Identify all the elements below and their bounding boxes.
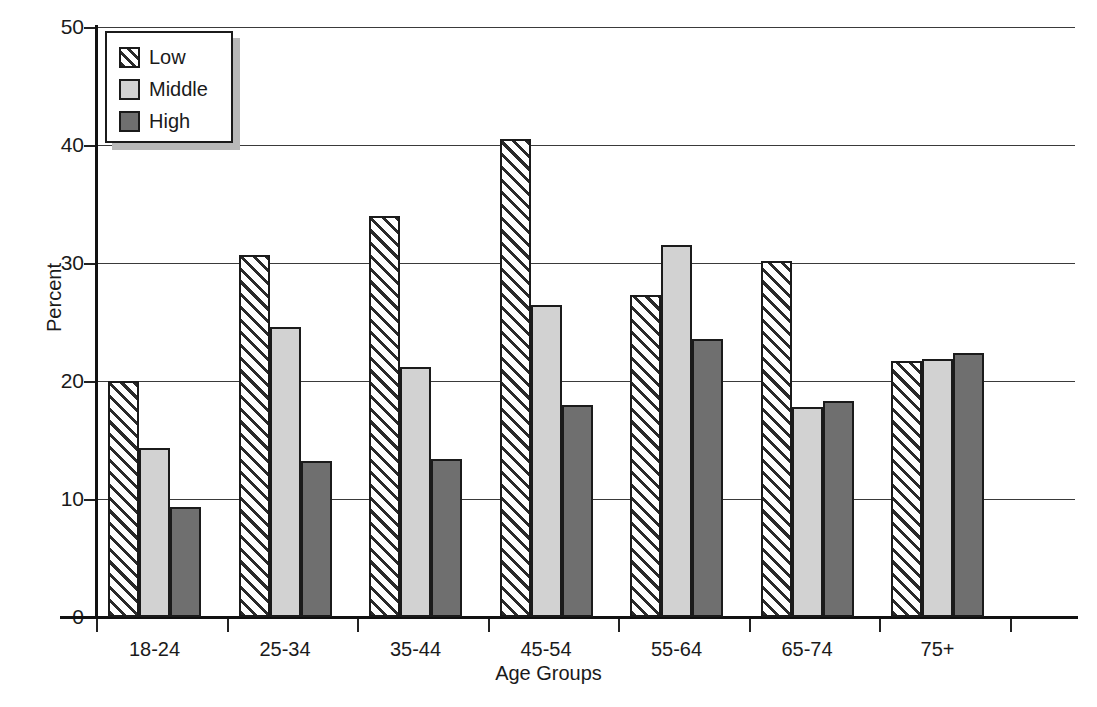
- bar-18-24-middle: [139, 448, 170, 617]
- legend-swatch-middle-icon: [119, 79, 140, 100]
- bar-75plus-low: [891, 361, 922, 617]
- legend-label: Middle: [149, 79, 208, 99]
- bar-65-74-high: [823, 401, 854, 617]
- y-axis-title: Percent: [43, 238, 66, 358]
- y-tick-label: 10: [24, 488, 84, 509]
- bar-25-34-high: [301, 461, 332, 617]
- x-tick-mark: [96, 619, 98, 632]
- x-tick-mark: [357, 619, 359, 632]
- bar-55-64-high: [692, 339, 723, 617]
- y-tick-label: 20: [24, 370, 84, 391]
- chart-legend: LowMiddleHigh: [105, 31, 233, 143]
- bar-65-74-middle: [792, 407, 823, 617]
- x-tick-label: 18-24: [95, 638, 215, 661]
- x-tick-mark: [618, 619, 620, 632]
- bar-35-44-low: [369, 216, 400, 617]
- bar-chart: 01020304050 18-2425-3435-4445-5455-6465-…: [0, 0, 1097, 707]
- x-tick-mark: [227, 619, 229, 632]
- bar-75plus-middle: [922, 359, 953, 617]
- x-tick-label: 25-34: [225, 638, 345, 661]
- legend-item-low: Low: [119, 41, 231, 73]
- bar-55-64-low: [630, 295, 661, 617]
- bar-45-54-high: [562, 405, 593, 617]
- bar-18-24-low: [108, 381, 139, 617]
- legend-label: High: [149, 111, 190, 131]
- x-tick-label: 65-74: [747, 638, 867, 661]
- legend-swatch-high-icon: [119, 111, 140, 132]
- legend-label: Low: [149, 47, 186, 67]
- bar-35-44-high: [431, 459, 462, 617]
- bar-55-64-middle: [661, 245, 692, 617]
- y-tick-label: 40: [24, 134, 84, 155]
- bar-65-74-low: [761, 261, 792, 617]
- bar-75plus-high: [953, 353, 984, 617]
- y-tick-label: 50: [24, 16, 84, 37]
- x-tick-label: 75+: [878, 638, 998, 661]
- plot-area: [96, 27, 1075, 617]
- legend-swatch-low-icon: [119, 47, 140, 68]
- x-tick-mark: [879, 619, 881, 632]
- bar-25-34-middle: [270, 327, 301, 617]
- bar-25-34-low: [239, 255, 270, 617]
- x-tick-mark: [1010, 619, 1012, 632]
- bar-45-54-low: [500, 139, 531, 617]
- bar-45-54-middle: [531, 305, 562, 617]
- x-axis-title: Age Groups: [0, 662, 1097, 685]
- x-tick-label: 55-64: [617, 638, 737, 661]
- x-tick-label: 45-54: [486, 638, 606, 661]
- x-tick-mark: [488, 619, 490, 632]
- legend-item-middle: Middle: [119, 73, 231, 105]
- x-tick-label: 35-44: [356, 638, 476, 661]
- bar-18-24-high: [170, 507, 201, 617]
- legend-item-high: High: [119, 105, 231, 137]
- x-tick-mark: [749, 619, 751, 632]
- bar-35-44-middle: [400, 367, 431, 617]
